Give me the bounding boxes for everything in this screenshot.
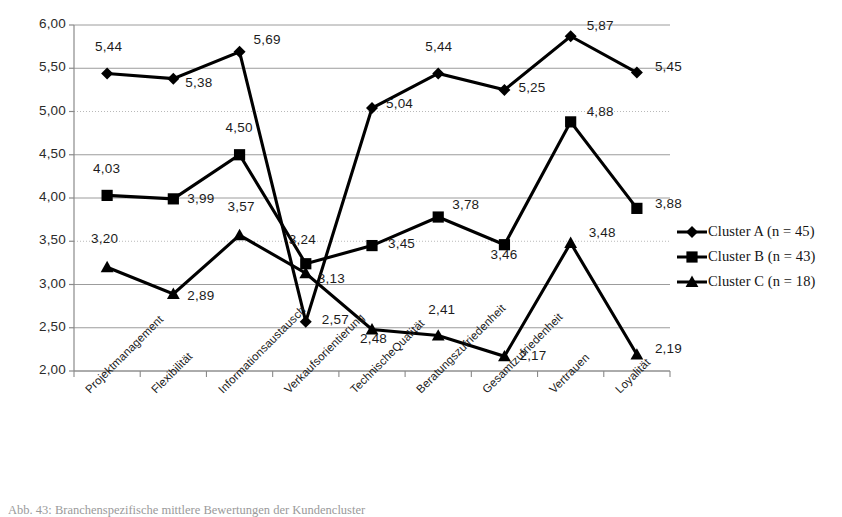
data-point-label: 5,04: [386, 96, 413, 111]
data-point-label: 3,99: [187, 191, 214, 206]
y-axis-tick-label: 4,50: [14, 146, 66, 161]
y-axis-tick-label: 5,00: [14, 103, 66, 118]
triangle-marker-icon: [676, 271, 708, 293]
diamond-marker-icon: [101, 67, 113, 79]
square-marker-icon: [168, 193, 179, 204]
chart-legend: Cluster A (n = 45)Cluster B (n = 43)Clus…: [676, 219, 838, 294]
square-marker-icon: [366, 240, 377, 251]
square-marker-icon: [234, 149, 245, 160]
diamond-marker-icon: [686, 226, 698, 238]
y-axis-tick-label: 3,50: [14, 232, 66, 247]
data-point-label: 3,20: [91, 231, 118, 246]
data-point-label: 2,19: [655, 341, 682, 356]
data-point-label: 2,57: [322, 312, 349, 327]
figure-caption: Abb. 43: Branchenspezifische mittlere Be…: [8, 503, 628, 517]
triangle-marker-icon: [564, 237, 577, 248]
data-point-label: 5,38: [185, 75, 212, 90]
data-point-label: 3,57: [228, 199, 255, 214]
triangle-marker-icon: [101, 261, 114, 272]
legend-item-label: Cluster A (n = 45): [708, 223, 815, 240]
legend-item[interactable]: Cluster C (n = 18): [676, 269, 838, 294]
y-axis-tick-label: 6,00: [14, 16, 66, 31]
legend-item-label: Cluster B (n = 43): [708, 248, 815, 265]
square-marker-icon: [433, 211, 444, 222]
data-point-label: 2,48: [360, 331, 387, 346]
y-axis-tick-label: 2,00: [14, 362, 66, 377]
data-point-label: 2,41: [428, 302, 455, 317]
legend-item-label: Cluster C (n = 18): [708, 273, 815, 290]
triangle-marker-icon: [233, 229, 246, 240]
y-axis-tick-label: 2,50: [14, 319, 66, 334]
data-point-label: 2,17: [519, 348, 546, 363]
data-point-label: 3,46: [490, 247, 517, 262]
data-point-label: 3,13: [318, 271, 345, 286]
data-point-label: 3,45: [388, 236, 415, 251]
legend-item[interactable]: Cluster B (n = 43): [676, 244, 838, 269]
y-axis-tick-label: 4,00: [14, 189, 66, 204]
data-point-label: 5,44: [95, 39, 122, 54]
data-point-label: 3,48: [589, 225, 616, 240]
diamond-marker-icon: [676, 221, 708, 243]
legend-item[interactable]: Cluster A (n = 45): [676, 219, 838, 244]
data-point-label: 5,69: [254, 32, 281, 47]
data-point-label: 3,78: [452, 197, 479, 212]
square-marker-icon: [565, 116, 576, 127]
data-point-label: 5,45: [655, 59, 682, 74]
data-point-label: 5,44: [425, 39, 452, 54]
data-point-label: 4,50: [226, 120, 253, 135]
square-marker-icon: [631, 203, 642, 214]
data-point-label: 5,87: [587, 18, 614, 33]
data-point-label: 4,88: [587, 104, 614, 119]
square-marker-icon: [102, 190, 113, 201]
y-axis-tick-label: 3,00: [14, 276, 66, 291]
diamond-marker-icon: [432, 67, 444, 79]
y-axis-ticks: [69, 25, 74, 371]
y-axis-tick-label: 5,50: [14, 59, 66, 74]
square-marker-icon: [686, 251, 697, 262]
data-point-label: 5,25: [518, 80, 545, 95]
data-point-label: 3,24: [289, 232, 316, 247]
series-markers: [101, 30, 644, 361]
diamond-marker-icon: [366, 102, 378, 114]
square-marker-icon: [676, 246, 708, 268]
diamond-marker-icon: [167, 73, 179, 85]
data-point-label: 3,88: [655, 196, 682, 211]
data-point-label: 2,89: [187, 288, 214, 303]
diamond-marker-icon: [234, 46, 246, 58]
chart-figure: 2,002,503,003,504,004,505,005,506,00 Pro…: [0, 0, 842, 517]
data-point-label: 4,03: [93, 161, 120, 176]
